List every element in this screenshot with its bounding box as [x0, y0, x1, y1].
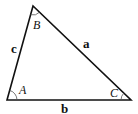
- angle-arc-a: [10, 90, 17, 100]
- side-label-b: b: [61, 102, 68, 114]
- angle-label-b: B: [33, 19, 40, 31]
- angle-label-c: C: [110, 87, 118, 99]
- angle-label-a: A: [19, 84, 26, 96]
- side-label-a: a: [83, 37, 90, 50]
- side-label-c: c: [11, 42, 17, 55]
- triangle-diagram: A B C a b c: [0, 0, 138, 114]
- angle-arc-c: [121, 93, 124, 100]
